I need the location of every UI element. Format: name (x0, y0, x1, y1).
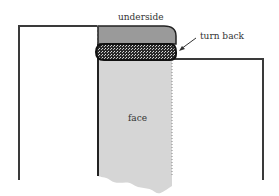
face-strip (98, 60, 172, 193)
underside-label: underside (118, 12, 164, 22)
fabric-diagram (0, 0, 279, 196)
turn-back-label: turn back (200, 31, 244, 41)
right-panel-outline (170, 59, 263, 180)
turn-back-roll (96, 44, 176, 60)
face-label: face (128, 113, 147, 123)
left-panel-outline (19, 26, 97, 180)
underside-band (98, 26, 176, 44)
